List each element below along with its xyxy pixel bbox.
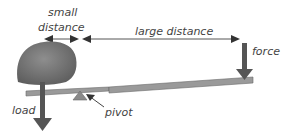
pivot-label: pivot xyxy=(105,107,133,118)
force-arrow xyxy=(236,43,253,80)
force-label: force xyxy=(252,46,280,57)
pivot-pointer-arrow xyxy=(86,94,104,107)
lever-diagram: small distance large distance force load… xyxy=(0,0,289,138)
small-distance-label: small xyxy=(48,7,77,18)
large-distance-label: large distance xyxy=(135,26,213,37)
lever-beam xyxy=(26,87,109,96)
load-label: load xyxy=(12,105,36,116)
small-distance-label-line2: distance xyxy=(38,22,85,33)
lever-beam-right xyxy=(109,77,253,93)
load-rock xyxy=(17,42,76,85)
